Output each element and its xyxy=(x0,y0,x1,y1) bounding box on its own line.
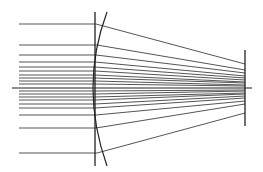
light-ray xyxy=(19,113,245,153)
light-ray xyxy=(19,45,245,70)
optics-diagram-canvas xyxy=(0,0,263,172)
light-ray xyxy=(19,90,245,91)
ray-diagram xyxy=(0,0,263,172)
light-ray xyxy=(19,24,245,64)
